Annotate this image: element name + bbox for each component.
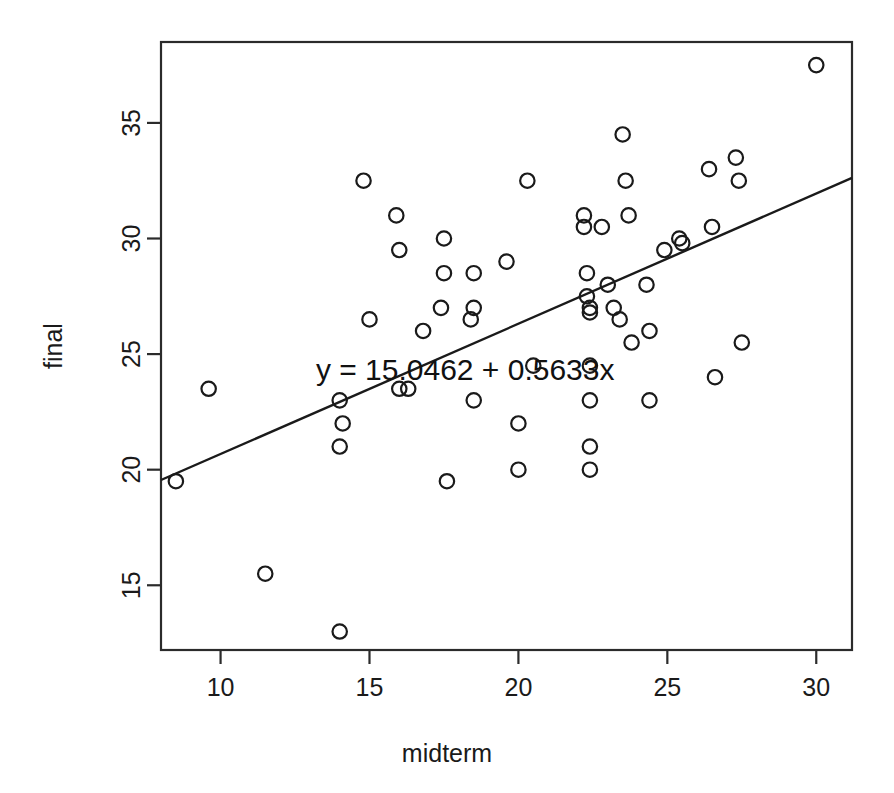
y-tick-label-30: 30 — [117, 225, 145, 253]
y-tick-label-15: 15 — [117, 571, 145, 599]
y-axis-title: final — [39, 323, 67, 369]
x-tick-label-15: 15 — [356, 673, 384, 701]
x-axis-title: midterm — [402, 739, 492, 767]
y-tick-label-20: 20 — [117, 456, 145, 484]
plot-canvas: 1015202530 1520253035 y = 15.0462 + 0.56… — [0, 0, 894, 793]
scatterplot-figure: 1015202530 1520253035 y = 15.0462 + 0.56… — [0, 0, 894, 793]
x-tick-label-25: 25 — [653, 673, 681, 701]
y-tick-label-35: 35 — [117, 109, 145, 137]
y-tick-label-25: 25 — [117, 340, 145, 368]
x-tick-label-30: 30 — [802, 673, 830, 701]
x-tick-label-10: 10 — [207, 673, 235, 701]
x-tick-label-20: 20 — [505, 673, 533, 701]
regression-equation-label: y = 15.0462 + 0.5633x — [316, 353, 615, 386]
